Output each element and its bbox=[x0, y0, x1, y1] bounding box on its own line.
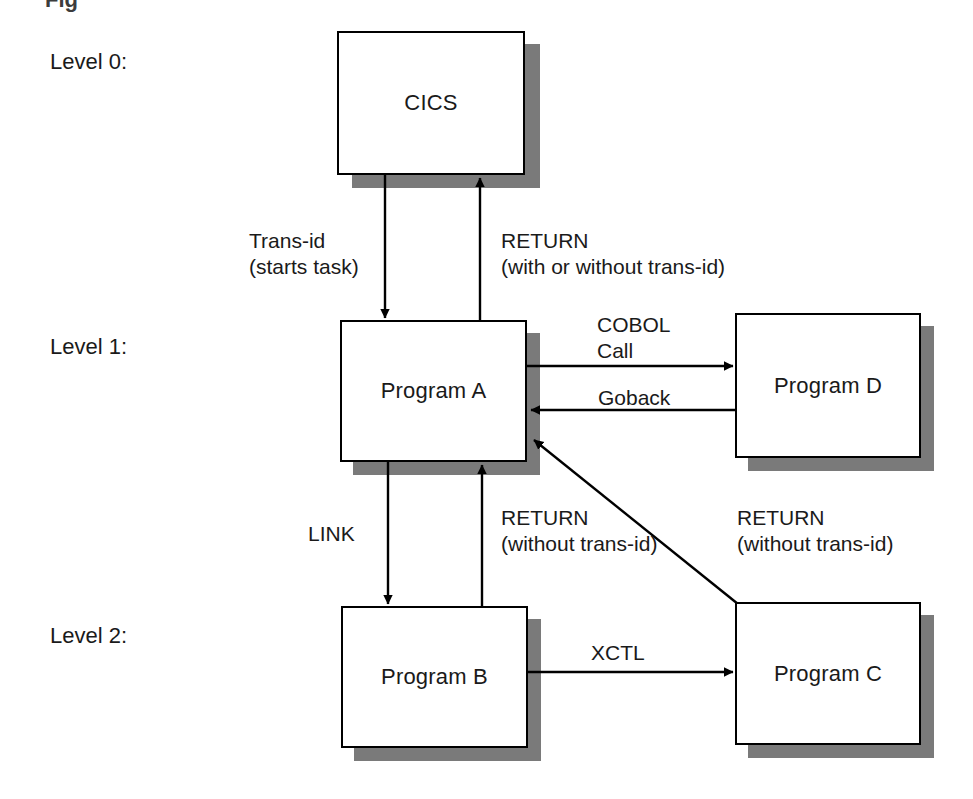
edge-label-line1: RETURN bbox=[737, 505, 893, 531]
edge-label-program-a-to-program-b: LINK bbox=[308, 521, 355, 547]
edge-label-line1: LINK bbox=[308, 521, 355, 547]
edge-label-line2: (without trans-id) bbox=[501, 531, 657, 557]
level-label-0: Level 0: bbox=[50, 49, 127, 75]
node-program-b[interactable]: Program B bbox=[341, 606, 528, 748]
node-program-d[interactable]: Program D bbox=[735, 313, 921, 458]
edge-label-line1: COBOL bbox=[597, 312, 671, 338]
edge-label-program-a-to-cics: RETURN (with or without trans-id) bbox=[501, 228, 725, 279]
edge-label-program-b-to-program-c: XCTL bbox=[591, 640, 645, 666]
node-cics-label: CICS bbox=[339, 90, 523, 116]
node-cics[interactable]: CICS bbox=[337, 31, 525, 175]
edge-label-program-c-to-program-a: RETURN (without trans-id) bbox=[737, 505, 893, 556]
node-program-c[interactable]: Program C bbox=[735, 602, 921, 745]
diagram-canvas: Fig Level 0: Level 1: Level 2: bbox=[0, 0, 973, 799]
level-label-1: Level 1: bbox=[50, 334, 127, 360]
node-program-a-label: Program A bbox=[342, 378, 525, 404]
node-program-d-label: Program D bbox=[737, 373, 919, 399]
edge-label-line1: RETURN bbox=[501, 505, 657, 531]
node-program-a[interactable]: Program A bbox=[340, 320, 527, 462]
node-program-b-label: Program B bbox=[343, 664, 526, 690]
edge-label-program-d-to-program-a: Goback bbox=[598, 385, 670, 411]
edge-label-line1: Trans-id bbox=[249, 228, 359, 254]
edge-label-line2: (without trans-id) bbox=[737, 531, 893, 557]
edge-label-line1: RETURN bbox=[501, 228, 725, 254]
edge-label-line1: XCTL bbox=[591, 640, 645, 666]
edge-label-program-b-to-program-a: RETURN (without trans-id) bbox=[501, 505, 657, 556]
level-label-2: Level 2: bbox=[50, 623, 127, 649]
edge-label-line2: (with or without trans-id) bbox=[501, 254, 725, 280]
edge-label-line2: Call bbox=[597, 338, 671, 364]
edge-label-cics-to-program-a: Trans-id (starts task) bbox=[249, 228, 359, 279]
edge-label-program-a-to-program-d: COBOL Call bbox=[597, 312, 671, 363]
edge-label-line2: (starts task) bbox=[249, 254, 359, 280]
node-program-c-label: Program C bbox=[737, 661, 919, 687]
edge-label-line1: Goback bbox=[598, 385, 670, 411]
